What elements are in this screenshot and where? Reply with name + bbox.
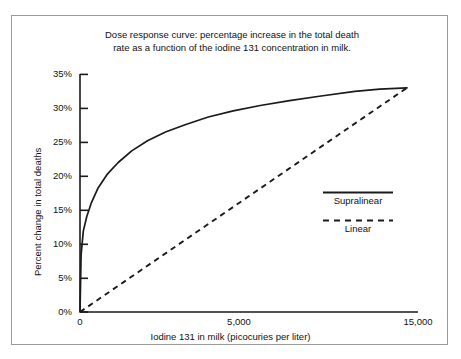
x-tick-label-5000: 5,000 bbox=[209, 316, 269, 327]
y-tick-label-20: 20% bbox=[38, 170, 72, 181]
chart-figure-frame: Dose response curve: percentage increase… bbox=[11, 15, 448, 345]
y-tick-label-0: 0% bbox=[38, 306, 72, 317]
legend-label-supralinear: Supralinear bbox=[323, 195, 393, 206]
y-axis-title: Percent change in total deaths bbox=[32, 148, 43, 276]
y-tick-label-30: 30% bbox=[38, 102, 72, 113]
y-tick-label-25: 25% bbox=[38, 136, 72, 147]
x-tick-label-15000: 15,000 bbox=[388, 316, 448, 327]
x-axis-title: Iodine 131 in milk (picocuries per liter… bbox=[0, 331, 461, 342]
y-tick-label-35: 35% bbox=[38, 68, 72, 79]
x-tick-label-0: 0 bbox=[70, 316, 90, 327]
plot-area bbox=[12, 16, 449, 346]
y-tick-label-5: 5% bbox=[38, 272, 72, 283]
y-tick-label-10: 10% bbox=[38, 238, 72, 249]
legend-label-linear: Linear bbox=[323, 223, 393, 234]
y-tick-label-15: 15% bbox=[38, 204, 72, 215]
